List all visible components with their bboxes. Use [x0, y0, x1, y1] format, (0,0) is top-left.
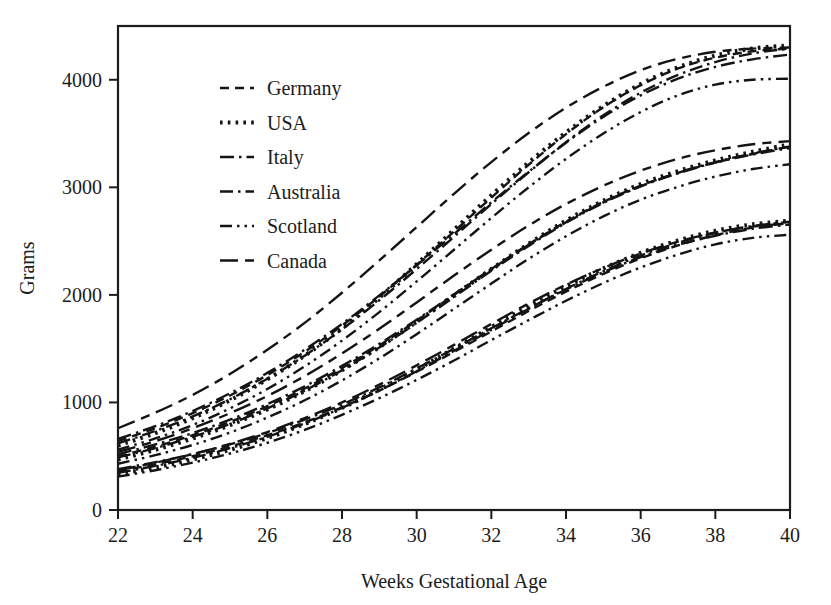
x-axis-title: Weeks Gestational Age	[361, 570, 547, 593]
x-tick-label: 38	[705, 524, 725, 546]
y-tick-label: 3000	[62, 176, 102, 198]
x-tick-label: 24	[183, 524, 203, 546]
y-tick-label: 2000	[62, 284, 102, 306]
x-tick-label: 34	[556, 524, 576, 546]
x-tick-label: 30	[407, 524, 427, 546]
x-tick-label: 26	[257, 524, 277, 546]
x-tick-label: 40	[780, 524, 800, 546]
x-tick-label: 32	[481, 524, 501, 546]
y-tick-label: 1000	[62, 391, 102, 413]
y-tick-label: 0	[92, 499, 102, 521]
x-tick-label: 22	[108, 524, 128, 546]
y-axis-title: Grams	[16, 241, 38, 295]
y-tick-label: 4000	[62, 69, 102, 91]
legend-label-germany: Germany	[267, 77, 341, 100]
legend-label-scotland: Scotland	[267, 215, 337, 237]
x-tick-label: 36	[631, 524, 651, 546]
x-tick-label: 28	[332, 524, 352, 546]
legend-label-canada: Canada	[267, 250, 327, 272]
legend-label-italy: Italy	[267, 146, 304, 169]
legend-label-australia: Australia	[267, 181, 340, 203]
legend-label-usa: USA	[267, 112, 308, 134]
chart-canvas: 40003000200010000 22242628303234363840 G…	[0, 0, 831, 605]
chart-figure: 40003000200010000 22242628303234363840 G…	[0, 0, 831, 605]
